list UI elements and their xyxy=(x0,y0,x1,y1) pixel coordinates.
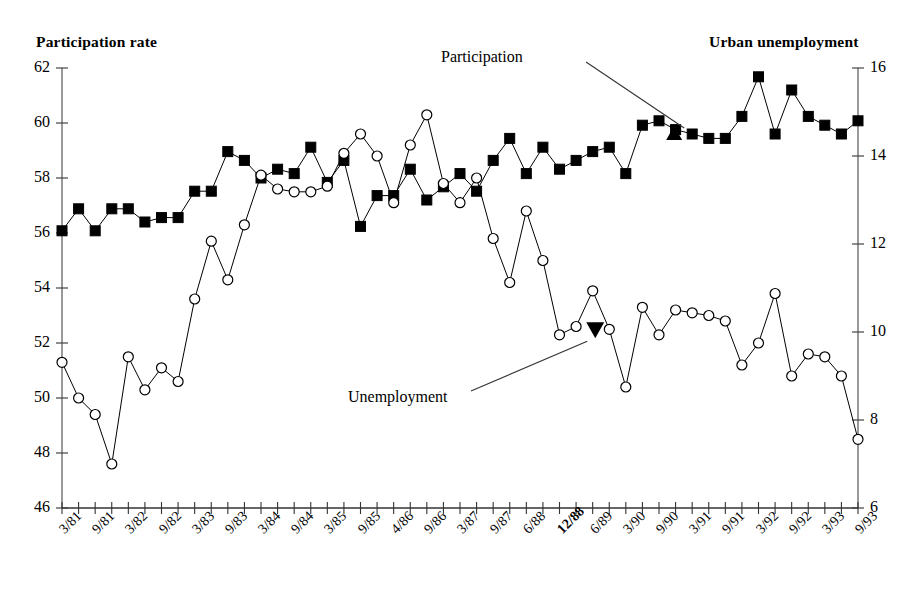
data-point-marker xyxy=(322,181,332,191)
left-axis-tick-label: 62 xyxy=(20,58,50,76)
data-point-marker xyxy=(770,129,780,139)
data-point-marker xyxy=(438,179,448,189)
data-point-marker xyxy=(754,338,764,348)
data-point-marker xyxy=(687,308,697,318)
data-point-marker xyxy=(289,169,299,179)
series-group xyxy=(57,72,863,469)
data-point-marker xyxy=(173,377,183,387)
data-point-marker xyxy=(737,111,747,121)
data-point-marker xyxy=(803,349,813,359)
data-point-marker xyxy=(190,186,200,196)
data-point-marker xyxy=(157,213,167,223)
data-point-marker xyxy=(787,371,797,381)
data-point-marker xyxy=(422,195,432,205)
data-point-marker xyxy=(123,204,133,214)
left-axis-tick-label: 48 xyxy=(20,443,50,461)
data-point-marker xyxy=(140,385,150,395)
data-point-marker xyxy=(190,294,200,304)
data-point-marker xyxy=(770,289,780,299)
data-point-marker xyxy=(853,116,863,126)
right-axis-tick-label: 12 xyxy=(870,234,900,252)
data-point-marker xyxy=(339,148,349,158)
data-point-marker xyxy=(389,198,399,208)
data-point-marker xyxy=(720,316,730,326)
data-point-marker xyxy=(720,133,730,143)
unemployment-pointer-triangle xyxy=(586,322,604,338)
data-point-marker xyxy=(571,322,581,332)
data-point-marker xyxy=(820,120,830,130)
data-point-marker xyxy=(107,459,117,469)
annotation-arrows xyxy=(471,62,684,391)
data-point-marker xyxy=(90,226,100,236)
data-point-marker xyxy=(206,186,216,196)
data-point-marker xyxy=(223,147,233,157)
data-point-marker xyxy=(90,410,100,420)
data-point-marker xyxy=(356,129,366,139)
data-point-marker xyxy=(687,129,697,139)
data-point-marker xyxy=(637,120,647,130)
data-point-marker xyxy=(621,169,631,179)
data-point-marker xyxy=(140,217,150,227)
data-point-marker xyxy=(571,155,581,165)
data-point-marker xyxy=(405,164,415,174)
data-point-marker xyxy=(488,234,498,244)
left-axis-tick-label: 50 xyxy=(20,388,50,406)
data-point-marker xyxy=(538,142,548,152)
data-point-marker xyxy=(671,305,681,315)
data-point-marker xyxy=(555,164,565,174)
chart-container: Participation rate Urban unemployment Pa… xyxy=(0,0,921,593)
data-point-marker xyxy=(472,173,482,183)
right-axis-tick-label: 16 xyxy=(870,58,900,76)
data-point-marker xyxy=(306,142,316,152)
data-point-marker xyxy=(704,311,714,321)
data-point-marker xyxy=(173,213,183,223)
data-point-marker xyxy=(704,133,714,143)
data-point-marker xyxy=(604,142,614,152)
data-point-marker xyxy=(538,256,548,266)
left-axis-tick-label: 58 xyxy=(20,168,50,186)
axes-group xyxy=(56,68,864,514)
data-point-marker xyxy=(455,198,465,208)
left-axis-tick-label: 52 xyxy=(20,333,50,351)
data-point-marker xyxy=(521,169,531,179)
data-point-marker xyxy=(256,170,266,180)
data-point-marker xyxy=(74,204,84,214)
left-axis-tick-label: 60 xyxy=(20,113,50,131)
data-point-marker xyxy=(239,155,249,165)
left-axis-tick-label: 54 xyxy=(20,278,50,296)
data-point-marker xyxy=(273,164,283,174)
data-point-marker xyxy=(405,140,415,150)
data-point-marker xyxy=(239,220,249,230)
right-axis-tick-label: 8 xyxy=(870,410,900,428)
data-point-marker xyxy=(505,133,515,143)
chart-plot-area xyxy=(0,0,921,593)
right-axis-tick-label: 10 xyxy=(870,322,900,340)
data-point-marker xyxy=(588,147,598,157)
data-point-marker xyxy=(289,187,299,197)
data-point-marker xyxy=(588,286,598,296)
data-point-marker xyxy=(488,155,498,165)
data-point-marker xyxy=(654,330,664,340)
data-point-marker xyxy=(372,191,382,201)
data-point-marker xyxy=(621,382,631,392)
data-point-marker xyxy=(737,360,747,370)
data-point-marker xyxy=(422,110,432,120)
data-point-marker xyxy=(836,371,846,381)
left-axis-tick-label: 56 xyxy=(20,223,50,241)
left-axis-tick-label: 46 xyxy=(20,498,50,516)
data-point-marker xyxy=(372,151,382,161)
data-point-marker xyxy=(223,275,233,285)
data-point-marker xyxy=(836,129,846,139)
data-point-marker xyxy=(157,363,167,373)
right-axis-tick-label: 14 xyxy=(870,146,900,164)
data-point-marker xyxy=(57,357,67,367)
data-point-marker xyxy=(123,352,133,362)
data-point-marker xyxy=(206,236,216,246)
data-point-marker xyxy=(107,204,117,214)
data-point-marker xyxy=(455,169,465,179)
data-point-marker xyxy=(306,187,316,197)
data-point-marker xyxy=(604,324,614,334)
data-point-marker xyxy=(820,352,830,362)
data-point-marker xyxy=(637,302,647,312)
data-point-marker xyxy=(853,434,863,444)
